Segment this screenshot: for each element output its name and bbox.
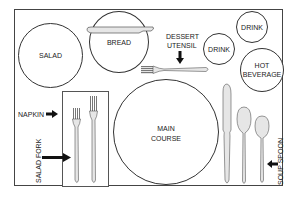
butter-knife-icon <box>85 26 155 36</box>
salad-fork-icon <box>72 108 82 186</box>
salad-label: SALAD <box>18 51 83 60</box>
napkin-arrow-icon <box>46 110 58 118</box>
bread-label: BREAD <box>89 38 149 47</box>
dessert-arrow-icon <box>176 51 184 65</box>
soup-spoon-icon <box>254 116 270 186</box>
drink-label-2: DRINK <box>236 23 268 32</box>
dessert-label-line1: DESSERT <box>166 33 199 41</box>
main-course-label-line1: MAIN <box>113 124 219 133</box>
salad-fork-label: SALAD FORK <box>35 139 42 183</box>
dessert-fork-icon <box>140 64 210 76</box>
teaspoon-icon <box>236 107 252 187</box>
hot-beverage-label-line1: HOT <box>240 61 284 70</box>
salad-fork-arrow-icon <box>42 153 72 162</box>
dinner-knife-icon <box>221 84 233 187</box>
main-course-label-line2: COURSE <box>113 134 219 143</box>
hot-beverage-label-line2: BEVERAGE <box>240 70 284 79</box>
soup-spoon-label: SOUP SPOON <box>277 138 284 185</box>
dessert-label-line2: UTENSIL <box>167 42 197 50</box>
dinner-fork-icon <box>89 96 99 186</box>
drink-label-1: DRINK <box>203 45 235 54</box>
napkin <box>62 91 109 187</box>
napkin-label: NAPKIN <box>18 111 44 119</box>
